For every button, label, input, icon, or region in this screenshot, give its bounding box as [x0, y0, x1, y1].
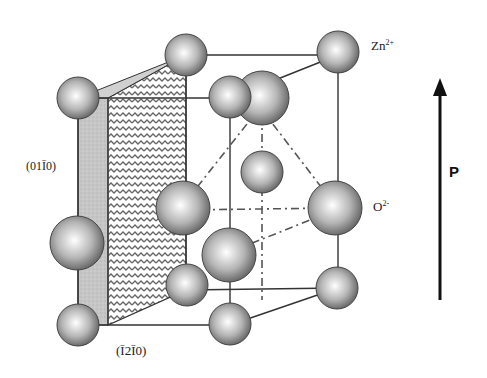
zn-atom: [317, 31, 359, 73]
plane-12-10-label: (Ī2Ī0): [116, 343, 146, 359]
o-atom: [156, 181, 210, 235]
o-atom: [308, 181, 362, 235]
zn-ion-label: Zn2+: [371, 38, 394, 54]
zn-atom: [57, 304, 99, 346]
o-ion-label: O2-: [373, 199, 389, 215]
zn-atom: [209, 303, 251, 345]
zn-atom: [166, 264, 208, 306]
crystal-structure-diagram: [0, 0, 487, 378]
polarization-label: P: [449, 163, 459, 180]
zn-atom: [209, 76, 251, 118]
plane-01-10-label: (01Ī0): [26, 159, 56, 174]
zn-atom: [57, 77, 99, 119]
zn-atom: [241, 151, 283, 193]
o-atom: [50, 216, 104, 270]
o-atom: [202, 228, 256, 282]
polarization-arrow: [433, 78, 447, 300]
plane-01-10: [78, 98, 108, 325]
zn-atom: [165, 34, 207, 76]
zn-atom: [316, 267, 358, 309]
